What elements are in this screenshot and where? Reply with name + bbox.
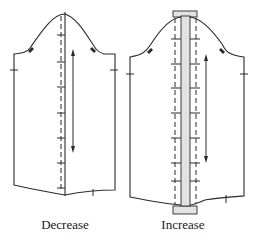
decrease-grainline-arrow — [71, 49, 75, 153]
increase-sleeve-left-half — [130, 17, 181, 205]
decrease-sleeve-pattern — [10, 12, 118, 196]
increase-insert-bottom-tab — [173, 206, 197, 214]
caption-increase: Increase — [143, 217, 223, 233]
increase-grainline-arrow — [204, 54, 208, 163]
sleeve-alteration-figure: Decrease Increase — [0, 0, 257, 242]
increase-sleeve-pattern — [126, 11, 248, 214]
caption-decrease: Decrease — [25, 217, 105, 233]
decrease-notches — [10, 47, 118, 196]
increase-sleeve-right-half — [190, 17, 244, 205]
increase-insert-strip — [181, 16, 190, 206]
